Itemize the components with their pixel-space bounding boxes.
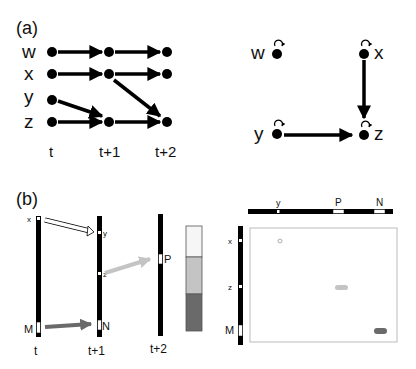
unrolled-nodes [47,47,172,127]
chromosome-bar-t1: y z N [97,216,110,337]
heatmap-top-bar: y P N [248,197,393,214]
unrolled-edges [58,52,160,122]
b-time-label-t: t [34,344,38,358]
color-legend [186,226,202,331]
summary-graph: w x y z [250,40,384,144]
panel-b-label: (b) [16,189,38,209]
time-label-t1: t+1 [99,143,120,160]
var-label-y: y [24,86,34,107]
self-loop-icons [275,40,370,127]
svg-text:x: x [228,237,232,246]
var-label-w: w [21,41,36,62]
figure: (a) w x y z t t+1 t+2 w x y z [0,0,416,369]
svg-text:N: N [376,197,383,208]
b-time-label-t1: t+1 [88,344,105,358]
summary-label-z: z [374,123,384,144]
svg-text:y: y [103,229,107,238]
svg-text:P: P [335,197,342,208]
b-time-label-t2: t+2 [150,342,167,356]
heatmap [250,228,397,342]
svg-text:M: M [24,323,33,335]
var-label-x: x [24,63,34,84]
panel-a-label: (a) [16,18,38,38]
svg-text:N: N [102,320,110,332]
svg-text:y: y [276,198,281,208]
heatmap-cell-dark [374,328,387,334]
time-label-t: t [49,143,54,160]
svg-text:M: M [225,324,234,336]
var-label-z: z [24,111,34,132]
heatmap-left-bar: x z M [225,226,243,345]
time-label-t2: t+2 [155,143,176,160]
summary-label-w: w [250,42,265,63]
svg-text:x: x [27,215,31,224]
summary-label-x: x [374,42,384,63]
heatmap-cell-light [335,285,348,290]
chromosome-bar-t2: P [158,214,171,336]
summary-label-y: y [254,123,264,144]
chromosome-bar-t: x M [24,215,41,337]
svg-text:z: z [228,283,232,292]
svg-text:P: P [164,253,171,265]
